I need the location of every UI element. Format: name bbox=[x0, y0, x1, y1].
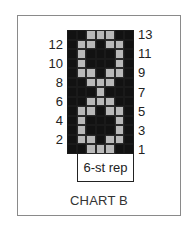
chart-cell bbox=[105, 59, 115, 69]
chart-cell bbox=[124, 135, 134, 145]
chart-cell bbox=[67, 30, 77, 40]
chart-cell bbox=[115, 116, 125, 126]
chart-cell bbox=[105, 97, 115, 107]
row-label: 4 bbox=[43, 114, 63, 127]
chart-cell bbox=[86, 135, 96, 145]
repeat-label: 6-st rep bbox=[83, 160, 127, 175]
row-label: 11 bbox=[138, 47, 152, 60]
chart-cell bbox=[115, 40, 125, 50]
chart-cell bbox=[105, 144, 115, 154]
chart-cell bbox=[124, 30, 134, 40]
chart-cell bbox=[86, 125, 96, 135]
chart-cell bbox=[115, 59, 125, 69]
chart-cell bbox=[77, 106, 87, 116]
chart-cell bbox=[124, 97, 134, 107]
chart-cell bbox=[77, 144, 87, 154]
chart-cell bbox=[96, 106, 106, 116]
chart-cell bbox=[67, 116, 77, 126]
row-label: 3 bbox=[138, 124, 145, 137]
chart-cell bbox=[86, 78, 96, 88]
chart-cell bbox=[96, 125, 106, 135]
chart-cell bbox=[115, 135, 125, 145]
row-label: 1 bbox=[138, 143, 145, 156]
chart-cell bbox=[115, 125, 125, 135]
chart-cell bbox=[105, 87, 115, 97]
chart-cell bbox=[115, 97, 125, 107]
row-label: 7 bbox=[138, 86, 145, 99]
chart-cell bbox=[77, 135, 87, 145]
chart-cell bbox=[86, 87, 96, 97]
row-label: 9 bbox=[138, 66, 145, 79]
chart-cell bbox=[124, 40, 134, 50]
chart-cell bbox=[105, 78, 115, 88]
repeat-bracket: 6-st rep bbox=[77, 154, 134, 182]
chart-cell bbox=[105, 49, 115, 59]
chart-cell bbox=[124, 59, 134, 69]
chart-cell bbox=[115, 78, 125, 88]
chart-cell bbox=[77, 68, 87, 78]
chart-cell bbox=[96, 40, 106, 50]
chart-cell bbox=[67, 68, 77, 78]
chart-cell bbox=[105, 30, 115, 40]
chart-cell bbox=[77, 87, 87, 97]
row-label: 2 bbox=[43, 133, 63, 146]
chart-cell bbox=[77, 116, 87, 126]
chart-cell bbox=[96, 97, 106, 107]
chart-cell bbox=[67, 49, 77, 59]
chart-cell bbox=[67, 106, 77, 116]
chart-cell bbox=[105, 125, 115, 135]
chart-cell bbox=[115, 30, 125, 40]
chart-cell bbox=[67, 87, 77, 97]
row-label: 5 bbox=[138, 105, 145, 118]
chart-cell bbox=[96, 116, 106, 126]
chart-cell bbox=[67, 97, 77, 107]
chart-cell bbox=[124, 106, 134, 116]
chart-cell bbox=[86, 97, 96, 107]
chart-cell bbox=[77, 40, 87, 50]
chart-cell bbox=[77, 78, 87, 88]
chart-cell bbox=[105, 116, 115, 126]
chart-cell bbox=[105, 68, 115, 78]
chart-cell bbox=[77, 125, 87, 135]
chart-cell bbox=[86, 30, 96, 40]
chart-cell bbox=[115, 106, 125, 116]
chart-cell bbox=[96, 135, 106, 145]
chart-cell bbox=[67, 40, 77, 50]
chart-cell bbox=[77, 97, 87, 107]
chart-cell bbox=[124, 68, 134, 78]
chart-cell bbox=[96, 49, 106, 59]
row-label: 13 bbox=[138, 28, 152, 41]
row-label: 10 bbox=[43, 57, 63, 70]
chart-cell bbox=[115, 144, 125, 154]
knitting-chart-grid bbox=[67, 30, 134, 154]
chart-cell bbox=[105, 135, 115, 145]
chart-cell bbox=[124, 78, 134, 88]
chart-cell bbox=[96, 68, 106, 78]
chart-cell bbox=[86, 144, 96, 154]
chart-cell bbox=[86, 40, 96, 50]
chart-cell bbox=[124, 49, 134, 59]
chart-cell bbox=[96, 144, 106, 154]
chart-title: CHART B bbox=[17, 193, 181, 208]
chart-cell bbox=[77, 59, 87, 69]
chart-cell bbox=[77, 49, 87, 59]
chart-cell bbox=[96, 87, 106, 97]
row-label: 12 bbox=[43, 38, 63, 51]
chart-cell bbox=[86, 116, 96, 126]
chart-cell bbox=[86, 106, 96, 116]
chart-cell bbox=[115, 49, 125, 59]
chart-cell bbox=[124, 116, 134, 126]
chart-cell bbox=[105, 106, 115, 116]
chart-cell bbox=[86, 68, 96, 78]
chart-cell bbox=[96, 78, 106, 88]
chart-cell bbox=[124, 125, 134, 135]
chart-cell bbox=[67, 125, 77, 135]
chart-cell bbox=[96, 30, 106, 40]
row-label: 8 bbox=[43, 76, 63, 89]
chart-cell bbox=[86, 59, 96, 69]
chart-cell bbox=[96, 59, 106, 69]
chart-cell bbox=[67, 135, 77, 145]
chart-cell bbox=[67, 78, 77, 88]
chart-cell bbox=[115, 68, 125, 78]
chart-cell bbox=[86, 49, 96, 59]
